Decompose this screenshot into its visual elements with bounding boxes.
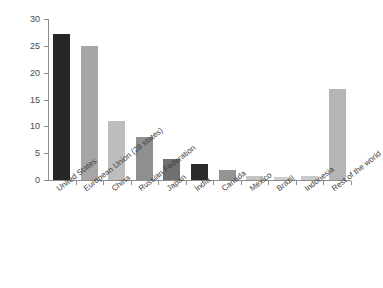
bar[interactable] bbox=[53, 34, 70, 181]
x-axis-tick-mark bbox=[186, 181, 187, 185]
x-axis-tick-mark bbox=[158, 181, 159, 185]
x-axis-tick-mark bbox=[323, 181, 324, 185]
x-axis-tick-mark bbox=[213, 181, 214, 185]
x-axis-tick-mark bbox=[241, 181, 242, 185]
x-axis-tick-mark bbox=[131, 181, 132, 185]
x-axis-tick-mark bbox=[76, 181, 77, 185]
x-axis-tick-mark bbox=[351, 181, 352, 185]
y-axis-tick-mark bbox=[44, 180, 48, 181]
x-axis-tick-mark bbox=[296, 181, 297, 185]
x-axis-tick-mark bbox=[268, 181, 269, 185]
x-axis-tick-mark bbox=[103, 181, 104, 185]
